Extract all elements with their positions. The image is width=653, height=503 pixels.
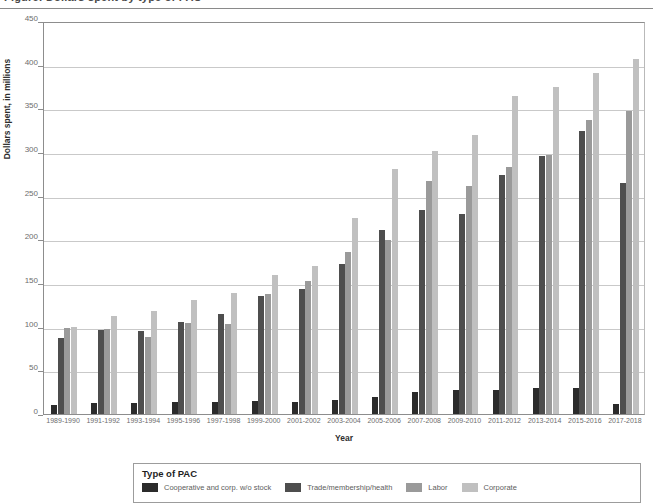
clipped-header-text: Figure: Dollars spent by type of PAC [4, 0, 202, 3]
bar-group [292, 23, 318, 414]
y-tick-label: 50 [8, 363, 38, 372]
x-tick-label: 2017-2018 [608, 417, 641, 424]
bar [178, 322, 184, 414]
bar [586, 120, 592, 414]
bar-group [412, 23, 438, 414]
x-tick-label: 2001-2002 [287, 417, 320, 424]
y-tick-mark [38, 328, 43, 329]
y-tick-label: 200 [8, 232, 38, 241]
bar [312, 266, 318, 414]
bar [131, 403, 137, 414]
bar [231, 293, 237, 414]
bar [412, 392, 418, 414]
x-tick-label: 2011-2012 [488, 417, 521, 424]
bar [392, 169, 398, 414]
clipped-header-strip: Figure: Dollars spent by type of PAC [0, 0, 653, 9]
y-tick-mark [38, 22, 43, 23]
y-tick-label: 250 [8, 189, 38, 198]
bar [553, 87, 559, 415]
bar [579, 131, 585, 414]
y-tick-mark [38, 371, 43, 372]
bar-group [613, 23, 639, 414]
bar [506, 167, 512, 414]
bar [426, 181, 432, 414]
legend-item[interactable]: Trade/membership/health [285, 483, 392, 492]
x-axis-ticks: 1989-19901991-19921993-19941995-19961997… [43, 417, 645, 431]
bar-group [493, 23, 519, 414]
bar-group [91, 23, 117, 414]
bar [345, 252, 351, 414]
bar [252, 401, 258, 414]
bar [466, 186, 472, 414]
x-tick-label: 2013-2014 [528, 417, 561, 424]
bar [332, 400, 338, 414]
y-tick-label: 400 [8, 58, 38, 67]
bar [145, 337, 151, 414]
bar [472, 135, 478, 414]
bar [265, 294, 271, 414]
bar [573, 388, 579, 414]
x-axis-title: Year [43, 433, 645, 443]
x-tick-label: 1989-1990 [46, 417, 79, 424]
bar [172, 402, 178, 414]
bar [212, 402, 218, 414]
bar [151, 311, 157, 414]
legend-item[interactable]: Labor [406, 483, 447, 492]
bar [626, 111, 632, 414]
bar [539, 156, 545, 414]
x-tick-label: 1995-1996 [167, 417, 200, 424]
bar [620, 183, 626, 414]
bar [111, 316, 117, 414]
y-tick-mark [38, 66, 43, 67]
legend-label: Cooperative and corp. w/o stock [164, 483, 271, 492]
legend-items: Cooperative and corp. w/o stockTrade/mem… [142, 483, 632, 492]
bar-group [172, 23, 198, 414]
bar-group [212, 23, 238, 414]
x-tick-label: 2009-2010 [448, 417, 481, 424]
bar [419, 210, 425, 414]
bar [593, 73, 599, 414]
y-tick-mark [38, 240, 43, 241]
bar [138, 331, 144, 414]
legend-label: Trade/membership/health [307, 483, 392, 492]
y-tick-label: 100 [8, 320, 38, 329]
x-tick-label: 2005-2006 [367, 417, 400, 424]
x-tick-label: 2015-2016 [568, 417, 601, 424]
bar [533, 388, 539, 414]
legend-swatch-icon [285, 483, 301, 492]
bar-group [573, 23, 599, 414]
bar [339, 264, 345, 414]
legend: Type of PAC Cooperative and corp. w/o st… [133, 463, 641, 503]
bar [385, 240, 391, 414]
bar [91, 403, 97, 414]
legend-item[interactable]: Corporate [462, 483, 517, 492]
bar-group [453, 23, 479, 414]
bar [305, 281, 311, 414]
bar [64, 328, 70, 414]
y-tick-mark [38, 415, 43, 416]
bar [104, 329, 110, 414]
bar [299, 289, 305, 414]
legend-label: Corporate [484, 483, 517, 492]
y-tick-mark [38, 197, 43, 198]
legend-item[interactable]: Cooperative and corp. w/o stock [142, 483, 271, 492]
y-tick-mark [38, 153, 43, 154]
bar-group [252, 23, 278, 414]
bar-group [51, 23, 77, 414]
legend-label: Labor [428, 483, 447, 492]
y-tick-mark [38, 284, 43, 285]
bar-group [372, 23, 398, 414]
bar-series-container [44, 23, 644, 414]
legend-title: Type of PAC [142, 468, 632, 479]
x-tick-label: 1993-1994 [127, 417, 160, 424]
y-tick-label: 300 [8, 145, 38, 154]
bar [71, 327, 77, 414]
bar-group [332, 23, 358, 414]
y-tick-label: 350 [8, 101, 38, 110]
bar-group [131, 23, 157, 414]
y-tick-label: 150 [8, 276, 38, 285]
bar [512, 96, 518, 414]
y-tick-label: 0 [8, 407, 38, 416]
bar [185, 323, 191, 414]
bar [379, 230, 385, 414]
